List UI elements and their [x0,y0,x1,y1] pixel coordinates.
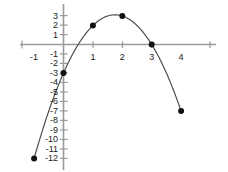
y-tick-label: -2 [20,59,58,68]
y-tick-label: -6 [20,97,58,106]
y-tick-label: 2 [20,21,58,30]
parabola-graph: -11234 321-1-2-3-4-5-6-7-8-9-10-11-12 [0,0,228,172]
y-tick-label: 1 [20,31,58,40]
y-tick-label: -10 [20,135,58,144]
data-point [90,23,96,29]
y-tick-label: -12 [20,154,58,163]
data-point [178,108,184,114]
x-tick-label: 1 [83,53,103,62]
y-tick-label: -4 [20,78,58,87]
data-point [61,70,67,76]
x-tick-label: 2 [112,53,132,62]
y-tick-label: -8 [20,116,58,125]
x-tick-label: 3 [142,53,162,62]
x-tick-label: 4 [171,53,191,62]
data-point [149,42,155,48]
data-point [119,13,125,19]
